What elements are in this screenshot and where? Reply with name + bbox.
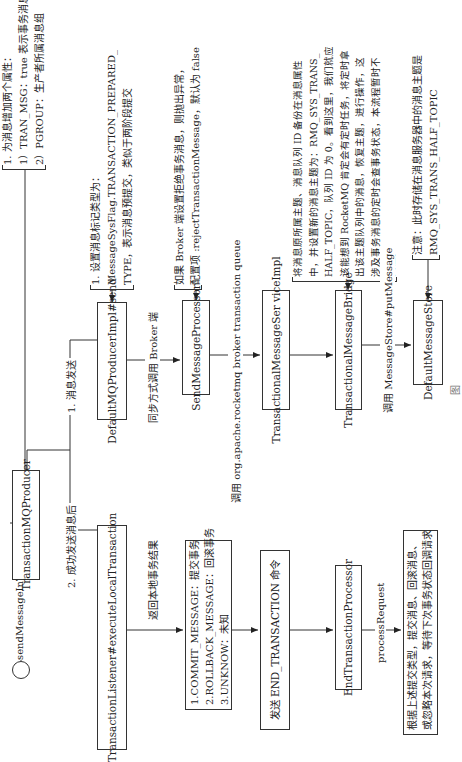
node-transaction-listener: TransactionListener#executeLocalTransact… — [97, 525, 127, 750]
final-action-box: 根据上述提交类型，提交消息、回滚消息、 或忽略本次请求，等待下次事务状态回调请求 — [403, 530, 438, 735]
node-end-transaction-processor: EndTransactionProcessor — [335, 565, 362, 690]
note-reject: 如果 Broker 端设置拒绝事务消息，则抛出异常， 配置项 :rejectTr… — [172, 47, 204, 290]
node-default-mq-producer-impl: DefaultMQProducerImpl#send — [97, 302, 127, 420]
edge-label-after-send: 2. 成功发送消息后 — [63, 503, 78, 590]
start-node — [12, 661, 30, 679]
result-types-box: 1.COMMIT_MESSAGE：提交事务 2.ROLLBACK_MESSAGE… — [185, 540, 232, 710]
edge-label-return-result: 返回本地事务结果 — [145, 538, 160, 622]
edge-label-call-queue: 调用 org.apache.rocketmq broker transactio… — [228, 238, 243, 506]
node-send-message-processor: SendMessageProcessor — [182, 300, 210, 395]
edge-label-send: 1. 消息发送 — [63, 358, 78, 415]
note-storage: 注意：此时存储在消息服务器中的消息主题是 RMQ_SYS_TRANS_HALF_… — [410, 55, 442, 260]
edge-label-put-message: 调用 MessageStore#putMessage — [380, 246, 395, 415]
edge-label-sync-call: 同步方式调用 Broker 端 — [145, 310, 160, 425]
note-properties: 1. 为消息增加两个属性： 1）TRAN_MSG：true 表示事务消息 2）P… — [0, 0, 48, 170]
edge-label-process-request: processRequest — [375, 581, 386, 665]
node-transactional-message-bridge: TransactionalMessageBridge — [335, 290, 362, 410]
node-transaction-mq-producer: TransactionMQProducer — [12, 470, 40, 580]
node-transactional-message-service-impl: TransactionalMessageSer viceImpl — [262, 290, 290, 410]
node-default-message-store: DefaultMessageStore — [413, 300, 443, 385]
note-prepared: 1. 设置消息标记类型为： MessageSysFlag.TRANSACTION… — [88, 50, 136, 290]
figure-caption: 图 — [447, 385, 462, 395]
node-label: TransactionMQProducer — [20, 459, 32, 591]
send-end-transaction-box: 发送 END_TRANSACTION 命令 — [260, 550, 290, 730]
